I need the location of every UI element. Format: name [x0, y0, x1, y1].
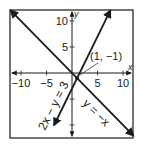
- y-axis-label: y: [73, 9, 79, 19]
- series-label-y-eq-neg-x: y = −x: [80, 96, 113, 129]
- x-tick-label: −5: [40, 77, 53, 89]
- intersection-label: (1, −1): [90, 50, 122, 62]
- intersection-point: [75, 76, 79, 80]
- y-tick-label: 5: [62, 41, 68, 53]
- x-tick-label: 10: [117, 77, 129, 89]
- x-tick-label: −10: [12, 77, 31, 89]
- x-tick-label: 5: [94, 77, 100, 89]
- chart: −10−5510510 x y (1, −1) 2x − y = 3 y = −…: [0, 0, 141, 147]
- ticks: −10−5510510: [12, 15, 129, 125]
- x-axis-label: x: [127, 62, 133, 72]
- labels: x y (1, −1) 2x − y = 3 y = −x: [35, 9, 133, 132]
- y-tick-label: 10: [56, 15, 68, 27]
